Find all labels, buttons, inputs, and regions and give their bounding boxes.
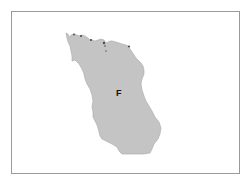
- region-f[interactable]: [66, 33, 161, 154]
- region-label-f: F: [116, 89, 122, 98]
- map-canvas: [0, 0, 252, 183]
